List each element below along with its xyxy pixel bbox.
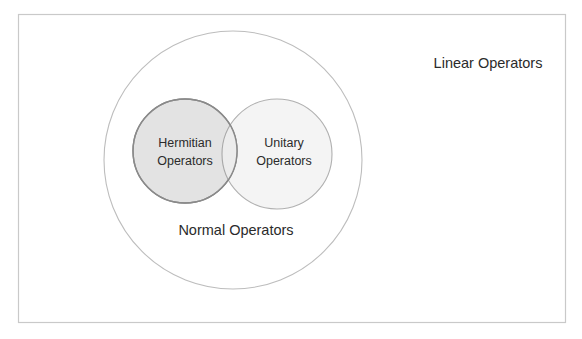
label-hermitian-operators-line1: Hermitian bbox=[158, 136, 212, 150]
label-normal-operators: Normal Operators bbox=[178, 222, 293, 238]
label-linear-operators: Linear Operators bbox=[434, 55, 543, 71]
label-unitary-operators-line2: Operators bbox=[256, 154, 312, 168]
venn-diagram-figure: Linear Operators Normal Operators Hermit… bbox=[0, 0, 582, 339]
label-unitary-operators-line1: Unitary bbox=[264, 136, 304, 150]
label-hermitian-operators-line2: Operators bbox=[157, 154, 213, 168]
venn-diagram-canvas: Linear Operators Normal Operators Hermit… bbox=[0, 0, 582, 339]
